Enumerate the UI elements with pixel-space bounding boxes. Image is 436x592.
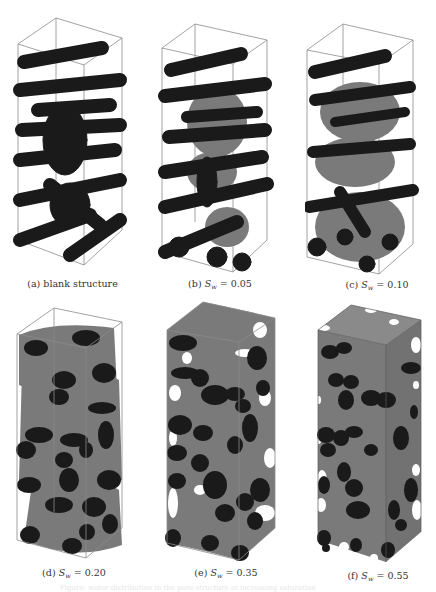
caption-f: (f) Sw = 0.55 [338,570,418,583]
equals-sign: = [217,278,231,289]
panel-label: (d) [42,567,56,578]
panel-label: (c) [345,279,358,290]
figure-caption-faded: Figure: water distribution in the pore s… [60,584,380,592]
panel-label: (f) [347,570,358,581]
panel-e-sw-035 [165,298,277,563]
caption-d: (d) Sw = 0.20 [34,567,114,580]
pore-structure-render [157,12,277,277]
caption-a: (a) blank structure [20,278,125,289]
panel-c-sw-010 [305,12,425,277]
panel-a-blank-structure [10,10,130,270]
panel-label: (b) [188,278,202,289]
panel-b-sw-005 [157,12,277,277]
equals-sign: = [373,279,387,290]
caption-e: (e) Sw = 0.35 [186,567,266,580]
caption-c: (c) Sw = 0.10 [337,279,417,292]
caption-text: blank structure [43,278,117,289]
panel-d-sw-020 [14,300,124,562]
panel-label: (e) [194,567,207,578]
saturation-value: 0.05 [231,278,252,289]
panel-label: (a) [27,278,40,289]
caption-b: (b) Sw = 0.05 [180,278,260,291]
equals-sign: = [373,570,387,581]
saturation-value: 0.10 [387,279,408,290]
pore-structure-render [305,12,425,277]
saturation-value: 0.55 [387,570,408,581]
pore-structure-render [10,10,130,270]
panel-f-sw-055 [316,300,428,565]
saturation-value: 0.35 [237,567,258,578]
saturation-value: 0.20 [85,567,106,578]
pore-structure-render [14,300,124,562]
pore-structure-render [316,300,428,565]
equals-sign: = [223,567,237,578]
equals-sign: = [71,567,85,578]
pore-structure-render [165,298,277,563]
